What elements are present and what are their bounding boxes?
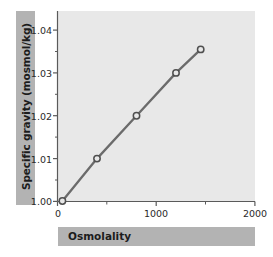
data-point-marker (173, 70, 179, 76)
data-point-marker (198, 46, 204, 52)
data-point-marker (133, 113, 139, 119)
data-point-marker (94, 155, 100, 161)
x-major-ticks (58, 202, 255, 207)
data-point-marker (59, 198, 65, 204)
data-line-specific-gravity (62, 49, 200, 201)
chart-svg (0, 0, 273, 257)
data-point-markers (59, 46, 204, 204)
chart-figure: Specific gravity (mosmol/kg) Osmolality … (0, 0, 273, 257)
y-major-ticks (53, 30, 58, 201)
